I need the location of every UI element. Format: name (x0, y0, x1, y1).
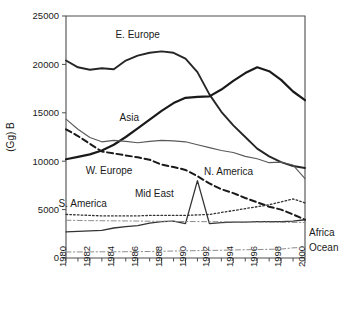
x-tick-label: 1994 (224, 246, 235, 267)
series-label-africa: Africa (309, 227, 335, 238)
x-tick-label: 1984 (105, 246, 116, 267)
x-tick-label: 1992 (200, 246, 211, 267)
x-tick-label: 1982 (81, 246, 92, 267)
series-label-mid-east: Mid East (135, 188, 174, 199)
x-tick-label: 1990 (177, 246, 188, 267)
y-tick-label: 25000 (33, 10, 59, 21)
y-tick-label: 10000 (33, 156, 59, 167)
series-label-asia: Asia (120, 112, 140, 123)
series-line-asia (66, 67, 305, 159)
line-chart: 0500010000150002000025000198019821984198… (0, 0, 346, 316)
x-tick-label: 1980 (57, 246, 68, 267)
series-label-ocean: Ocean (309, 242, 338, 253)
series-label-s-america: S. America (59, 198, 108, 209)
y-axis-label: (Gg) B (5, 122, 16, 152)
x-tick-label: 2000 (296, 246, 307, 267)
chart-figure: 0500010000150002000025000198019821984198… (0, 0, 346, 316)
series-label-e-europe: E. Europe (115, 29, 160, 40)
x-tick-label: 1988 (153, 246, 164, 267)
y-tick-label: 15000 (33, 107, 59, 118)
series-label-w-europe: W. Europe (86, 165, 133, 176)
y-tick-label: 5000 (38, 204, 59, 215)
x-tick-label: 1996 (248, 246, 259, 267)
series-label-n-america: N. America (204, 166, 253, 177)
x-tick-label: 1986 (129, 246, 140, 267)
y-tick-label: 20000 (33, 59, 59, 70)
